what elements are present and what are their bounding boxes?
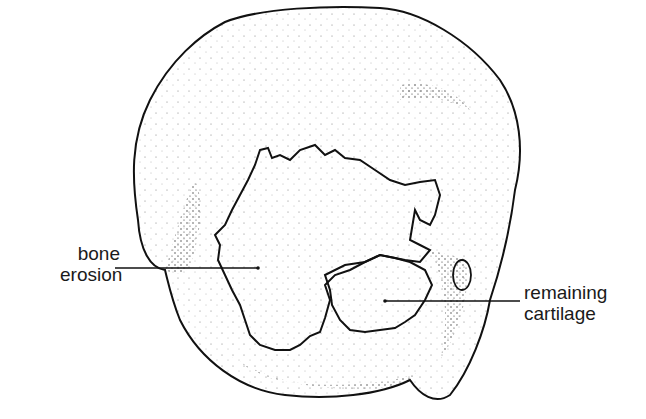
bone-erosion-label-line1: bone xyxy=(60,243,120,264)
joint-drawing xyxy=(0,0,646,419)
diagram-canvas: bone erosion remaining cartilage xyxy=(0,0,646,419)
remaining-cartilage-label-line2: cartilage xyxy=(524,303,607,324)
remaining-cartilage-label-line1: remaining xyxy=(524,282,607,303)
remaining-cartilage-label: remaining cartilage xyxy=(524,282,607,324)
bone-erosion-label-line2: erosion xyxy=(60,264,120,285)
bone-erosion-label: bone erosion xyxy=(60,243,120,285)
